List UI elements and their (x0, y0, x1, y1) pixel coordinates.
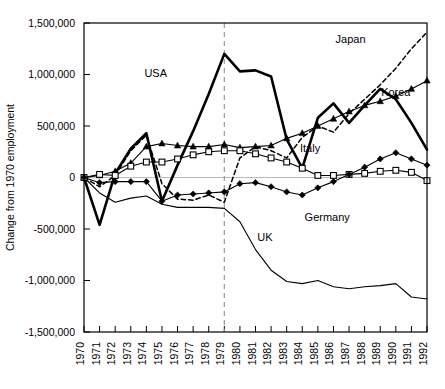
marker-italy (112, 173, 118, 179)
marker-italy (253, 151, 259, 157)
x-tick-label: 1980 (230, 342, 242, 366)
marker-italy (206, 149, 212, 155)
marker-italy (409, 169, 415, 175)
series-annotation-germany: Germany (305, 211, 351, 223)
y-axis-title-text: Change from 1970 employment (4, 104, 16, 251)
x-tick-label: 1973 (121, 342, 133, 366)
marker-italy (377, 168, 383, 174)
marker-italy (221, 148, 227, 154)
y-tick-label: -1,000,000 (25, 274, 75, 286)
marker-italy (284, 159, 290, 165)
x-tick-label: 1987 (339, 342, 351, 366)
x-tick-label: 1972 (105, 342, 117, 366)
x-tick-label: 1976 (168, 342, 180, 366)
x-tick-label: 1981 (246, 342, 258, 366)
x-tick-label: 1990 (386, 342, 398, 366)
series-annotation-uk: UK (257, 231, 273, 243)
marker-italy (331, 173, 337, 179)
series-annotation-usa: USA (144, 67, 167, 79)
x-tick-label: 1978 (199, 342, 211, 366)
marker-italy (299, 165, 305, 171)
x-tick-label: 1970 (74, 342, 86, 366)
series-annotation-italy: Italy (300, 142, 321, 154)
x-tick-label: 1977 (183, 342, 195, 366)
x-tick-label: 1991 (401, 342, 413, 366)
x-tick-label: 1975 (152, 342, 164, 366)
x-tick-label: 1979 (214, 342, 226, 366)
x-tick-label: 1984 (292, 342, 304, 366)
marker-italy (237, 148, 243, 154)
x-tick-label: 1985 (308, 342, 320, 366)
y-tick-label: -1,500,000 (25, 326, 75, 338)
x-tick-label: 1992 (417, 342, 429, 366)
marker-italy (97, 172, 103, 178)
marker-italy (175, 156, 181, 162)
y-tick-label: 0 (69, 171, 75, 183)
y-tick-label: -500,000 (34, 223, 76, 235)
x-tick-label: 1982 (261, 342, 273, 366)
x-tick-label: 1986 (323, 342, 335, 366)
y-tick-label: 1,500,000 (28, 17, 75, 29)
x-tick-label: 1974 (136, 342, 148, 366)
series-annotation-korea: Korea (381, 86, 411, 98)
marker-italy (315, 173, 321, 179)
marker-italy (393, 167, 399, 173)
y-tick-label: 1,000,000 (28, 68, 75, 80)
x-tick-label: 1971 (90, 342, 102, 366)
x-tick-label: 1988 (355, 342, 367, 366)
marker-italy (128, 163, 134, 169)
y-axis-title: Change from 1970 employment (4, 104, 16, 251)
marker-italy (268, 155, 274, 161)
marker-italy (159, 159, 165, 165)
chart-container: Change from 1970 employment 1,500,0001,0… (0, 0, 445, 389)
series-annotation-japan: Japan (336, 33, 366, 45)
y-tick-label: 500,000 (37, 120, 75, 132)
marker-italy (190, 152, 196, 158)
employment-change-line-chart: Change from 1970 employment 1,500,0001,0… (0, 0, 445, 389)
x-tick-label: 1989 (370, 342, 382, 366)
x-tick-label: 1983 (277, 342, 289, 366)
marker-italy (143, 159, 149, 165)
marker-italy (362, 170, 368, 176)
